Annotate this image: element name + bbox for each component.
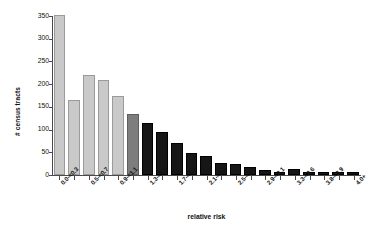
bar	[200, 156, 212, 175]
x-label-slot	[214, 180, 229, 214]
bar-slot	[155, 16, 170, 175]
y-axis-tick-label: 100	[38, 126, 49, 133]
bar	[318, 172, 330, 175]
bar-slot	[331, 16, 346, 175]
x-axis-title: relative risk	[52, 213, 361, 220]
bar-series	[52, 16, 360, 175]
bar-slot	[81, 16, 96, 175]
x-label-slot	[302, 180, 317, 214]
y-axis-tick-label: 50	[41, 149, 49, 156]
bar-slot	[184, 16, 199, 175]
bar	[171, 143, 183, 175]
y-axis-tick-label: 300	[38, 35, 49, 42]
x-label-slot	[273, 180, 288, 214]
y-axis-tick-label: 350	[38, 13, 49, 20]
chart-figure: # census tracts 050100150200250300350 0.…	[0, 0, 376, 232]
bar-slot	[345, 16, 360, 175]
y-axis-tick-label: 150	[38, 103, 49, 110]
x-label-slot	[243, 180, 258, 214]
bar-slot	[111, 16, 126, 175]
bar-slot	[52, 16, 67, 175]
x-label-slot: 1.7-<1.9	[170, 180, 185, 214]
x-label-slot	[155, 180, 170, 214]
y-axis-tick-label: 200	[38, 81, 49, 88]
bar	[98, 80, 110, 175]
x-label-slot: 2.9-<3.1	[258, 180, 273, 214]
bar	[112, 96, 124, 175]
y-axis-tick-label: 250	[38, 58, 49, 65]
x-label-slot: 0.5-<0.7	[81, 180, 96, 214]
bar	[54, 15, 66, 175]
bar	[288, 169, 300, 175]
bar-slot	[67, 16, 82, 175]
x-label-slot	[67, 180, 82, 214]
x-label-slot: 3.8-<3.9	[317, 180, 332, 214]
x-label-slot: 2.1-<2.3	[199, 180, 214, 214]
bar-slot	[257, 16, 272, 175]
x-label-slot	[184, 180, 199, 214]
x-label-slot	[126, 180, 141, 214]
x-label-slot	[332, 180, 347, 214]
bar-slot	[96, 16, 111, 175]
x-label-slot: 2.5-<2.7	[229, 180, 244, 214]
bar	[347, 172, 359, 175]
bar-slot	[169, 16, 184, 175]
bar-slot	[316, 16, 331, 175]
bar-slot	[243, 16, 258, 175]
y-axis-title: # census tracts	[14, 67, 21, 157]
bar	[68, 100, 80, 175]
bar	[83, 75, 95, 175]
x-label-slot	[96, 180, 111, 214]
bar-slot	[287, 16, 302, 175]
bar-slot	[125, 16, 140, 175]
x-label-slot: 0.0-<0.3	[52, 180, 67, 214]
bar-slot	[301, 16, 316, 175]
bar	[230, 164, 242, 175]
bar	[259, 170, 271, 175]
bar-slot	[213, 16, 228, 175]
x-label-slot: 0.9-<1.1	[111, 180, 126, 214]
bar	[142, 123, 154, 175]
plot-area: 050100150200250300350	[52, 16, 360, 175]
bar-slot	[228, 16, 243, 175]
x-axis-tick-labels: 0.0-<0.30.5-<0.70.9-<1.11.3-<1.51.7-<1.9…	[52, 180, 361, 214]
bar-slot	[272, 16, 287, 175]
x-label-slot: 1.3-<1.5	[140, 180, 155, 214]
x-label-slot: 4.0+	[346, 180, 361, 214]
x-label-slot: 3.3-<3.6	[288, 180, 303, 214]
bar-slot	[199, 16, 214, 175]
bar-slot	[140, 16, 155, 175]
